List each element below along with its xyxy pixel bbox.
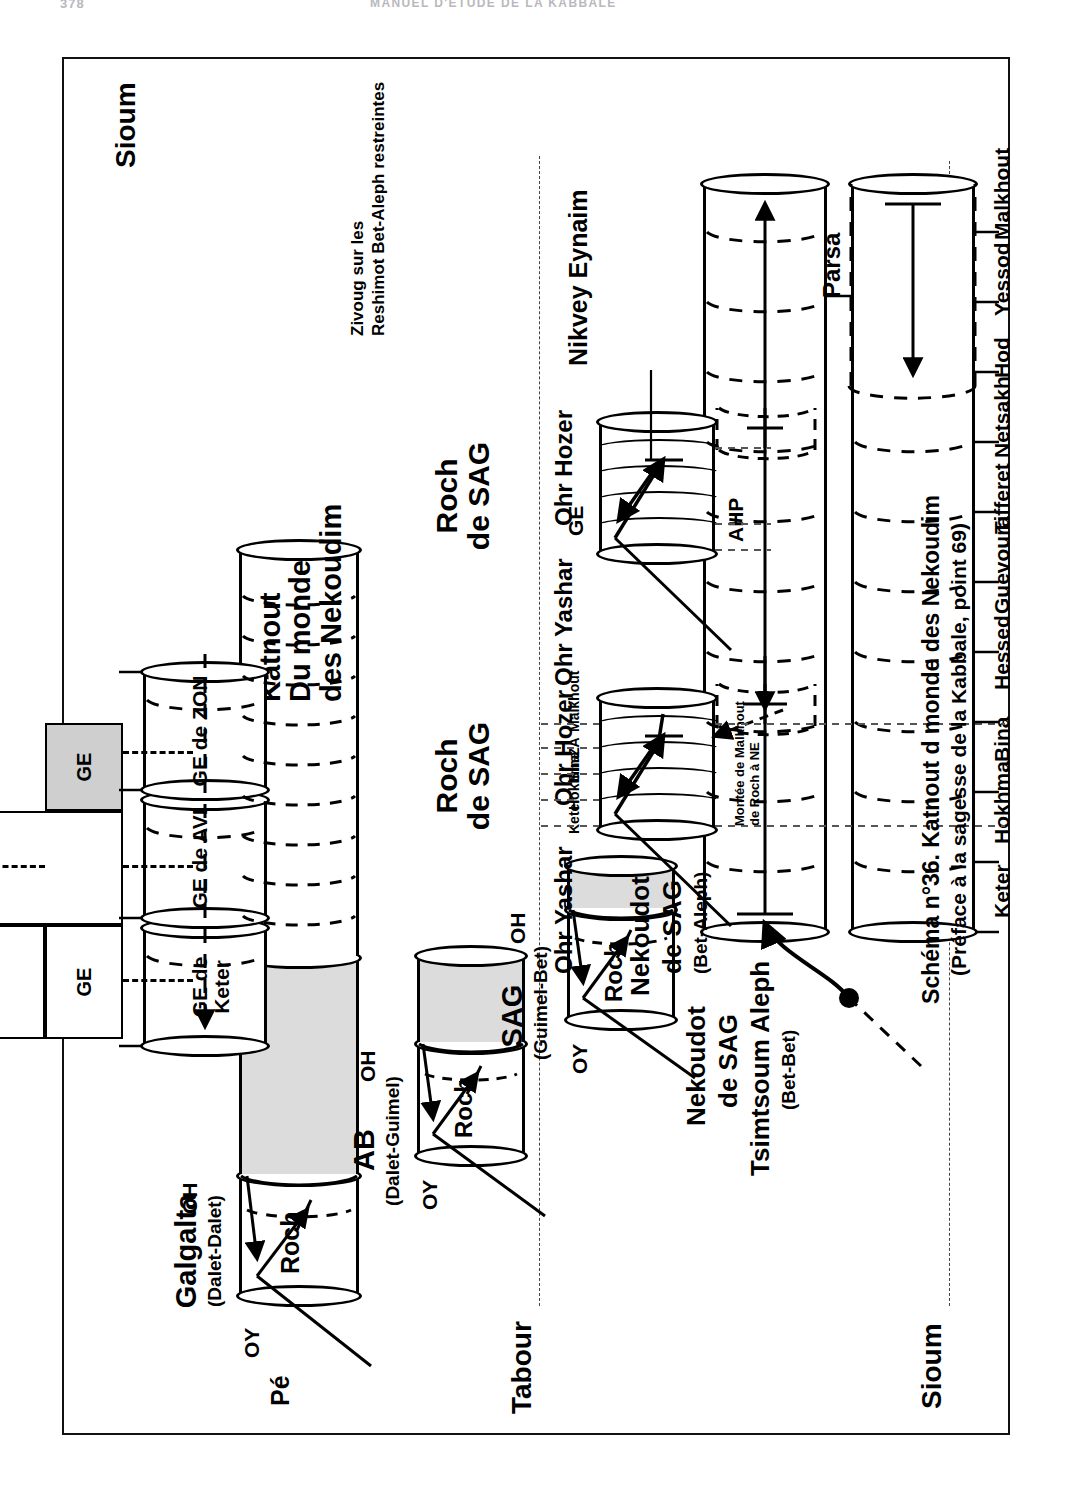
nekoudot-sag-bb-line1: Nekoudot bbox=[683, 1006, 710, 1126]
katnout-box-ahp-de-avi: AHPdeAVI bbox=[0, 811, 123, 925]
katnout-cyl-ge-de-keter-label: GE de Keter bbox=[189, 928, 233, 1046]
roch-sag-top-ring-4 bbox=[596, 439, 722, 457]
diagram-stage: Pé Tabour Sioum Sioum Galgalta (Dalet-Da… bbox=[71, 66, 1001, 1426]
sefira-label-malkhout: Malkhout bbox=[991, 148, 1013, 240]
roch-sag-top-ring-2 bbox=[596, 491, 722, 509]
label-sioum-left: Sioum bbox=[917, 1323, 946, 1409]
roch-sag-mid-ring-1 bbox=[596, 793, 722, 811]
katnout-box-ge-de-keter: GEdeKeter bbox=[0, 925, 45, 1039]
katnout-dash-1 bbox=[123, 979, 193, 982]
sag-roch-label: Roch bbox=[601, 942, 626, 1002]
roch-sag-top-ohr-yashar: Ohr Yashar bbox=[551, 558, 576, 686]
galgalta-oy-label: OY bbox=[241, 1328, 263, 1358]
katnout-box-ge-de-keter-label: GEdeKeter bbox=[0, 927, 1, 1037]
label-tabour: Tabour bbox=[507, 1321, 536, 1414]
sefira-label-netsakh: Netsakh bbox=[991, 376, 1013, 458]
katnout-title: Katnout Du monde des Nekoudim bbox=[255, 402, 346, 702]
sefira-label-hod: Hod bbox=[991, 337, 1013, 378]
roch-sag-top-ring-1 bbox=[596, 517, 722, 535]
nekoudot-sag-ba-line4: (Bet-Aleph) bbox=[691, 872, 711, 974]
galgalta-oh-label: OH bbox=[179, 1183, 201, 1215]
ab-oh-label: OH bbox=[357, 1051, 379, 1083]
roch-de-sag-top-title: Roch de SAG bbox=[431, 406, 494, 586]
nekoudot-sag-ba-line2: de SAG bbox=[659, 880, 686, 974]
partzuf-galgalta-sub: (Dalet-Dalet) bbox=[205, 1136, 225, 1366]
partzuf-ab-name: AB bbox=[348, 1129, 380, 1171]
sag-oh-label: OH bbox=[507, 913, 529, 945]
partzuf-ab-title: AB bbox=[349, 1070, 379, 1230]
nekoudot-sag-ba-line1: Nekoudot bbox=[627, 876, 654, 996]
galgalta-roch-label: Roch bbox=[277, 1212, 303, 1275]
label-sioum-right: Sioum bbox=[111, 82, 140, 168]
katnout-box-ge-lower: GE bbox=[45, 925, 123, 1039]
katnout-box-ge-shaded-bot-label: GE bbox=[74, 725, 95, 809]
partzuf-sag-sub: (Guimel-Bet) bbox=[531, 888, 551, 1118]
partzuf-ab-sub: (Dalet-Guimel) bbox=[383, 1026, 403, 1256]
roch-sag-mid-ring-2 bbox=[596, 767, 722, 785]
zivoug-note: Zivoug sur les Reshimot Bet-Aleph restre… bbox=[347, 82, 390, 336]
ab-oy-label: OY bbox=[419, 1180, 441, 1210]
partzuf-sag-name: SAG bbox=[496, 985, 528, 1048]
running-head: 378 MANUEL D'ETUDE DE LA KABBALE bbox=[0, 0, 1073, 14]
running-head-title: MANUEL D'ETUDE DE LA KABBALE bbox=[370, 0, 617, 10]
sag-oy-label: OY bbox=[569, 1044, 591, 1074]
katnout-dash-3 bbox=[123, 751, 193, 754]
partzuf-galgalta-title: Galgalta bbox=[171, 1136, 201, 1366]
folio-number: 378 bbox=[60, 0, 85, 11]
sefira-label-hessed: Hessed bbox=[991, 615, 1013, 690]
roch-sag-mid-inner-bina: Bina bbox=[567, 752, 582, 782]
parsa-label-mid: Parsa bbox=[819, 233, 844, 298]
sefira-label-tifferet: Tifferet bbox=[991, 463, 1013, 534]
roch-de-sag-mid-title: Roch de SAG bbox=[431, 686, 494, 866]
roch-sag-mid-ring-3 bbox=[596, 741, 722, 759]
partzuf-sag-title: SAG bbox=[497, 936, 527, 1096]
katnout-cyl-ge-de-avi-label: GE de AVI bbox=[189, 800, 211, 918]
sefira-label-hokhma: Hokhma bbox=[991, 761, 1013, 844]
katnout-box-ge-shaded-bot: GE bbox=[45, 723, 123, 811]
sefira-label-keter: Keter bbox=[991, 864, 1013, 918]
roch-sag-top-ahp-label: AHP bbox=[725, 498, 747, 542]
label-pe: Pé bbox=[267, 1375, 293, 1406]
figure-caption-line1: Schéma n°36. Katnout d monde des Nekoudi… bbox=[917, 440, 946, 1060]
roch-sag-top-ge-label: GE bbox=[565, 506, 587, 536]
ab-roch-label: Roch bbox=[451, 1078, 476, 1138]
nikvey-eynaim-label: Nikvey Eynaim bbox=[565, 190, 591, 367]
katnout-cyl-ge-de-zon-label: GE de ZON bbox=[189, 672, 211, 790]
montee-malkhout-label: Montée de Malkhoutde Roch à NE bbox=[733, 701, 763, 826]
figure-caption: Schéma n°36. Katnout d monde des Nekoudi… bbox=[917, 440, 972, 1060]
sefira-label-yessod: Yessod bbox=[991, 242, 1013, 316]
katnout-dash-4 bbox=[0, 865, 45, 868]
katnout-box-ahp-de-avi-label: AHPdeAVI bbox=[0, 813, 1, 923]
roch-sag-mid-inner-za: ZA bbox=[567, 737, 582, 756]
roch-sag-mid-ohr-yashar: Ohr Yashar bbox=[551, 846, 576, 974]
nekoudot-sag-bb-line3: Tsimtsoum Aleph bbox=[747, 961, 774, 1176]
figure-frame: Pé Tabour Sioum Sioum Galgalta (Dalet-Da… bbox=[62, 57, 1010, 1435]
roch-sag-top-ring-3 bbox=[596, 465, 722, 483]
sefira-label-bina: Bina bbox=[991, 716, 1013, 762]
nekoudot-sag-bb-line4: (Bet-Bet) bbox=[779, 1030, 799, 1110]
tabour-guide bbox=[539, 156, 540, 1306]
roch-sag-mid-ring-4 bbox=[596, 715, 722, 733]
katnout-dash-2 bbox=[123, 865, 193, 868]
figure-caption-line2: (Préface à la sagesse de la Kabbale, poi… bbox=[945, 440, 971, 1060]
nekoudot-sag-bb-line2: de SAG bbox=[715, 1014, 742, 1108]
katnout-box-ge-lower-label: GE bbox=[74, 927, 95, 1037]
